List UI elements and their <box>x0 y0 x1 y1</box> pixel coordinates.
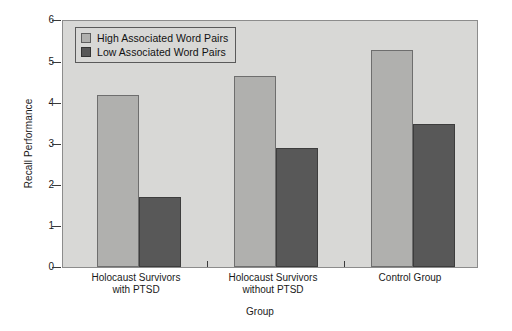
legend-label-high: High Associated Word Pairs <box>97 32 228 44</box>
y-tick-label-5: 5 <box>30 57 54 67</box>
x-tick-mark-2 <box>344 261 345 267</box>
x-tick-label-group-2-line-2: without PTSD <box>173 284 373 296</box>
y-tick-mark-0 <box>52 267 61 268</box>
y-tick-label-4: 4 <box>30 98 54 108</box>
y-tick-label-6: 6 <box>30 15 54 25</box>
y-tick-label-1: 1 <box>30 221 54 231</box>
x-axis-title: Group <box>40 306 480 317</box>
x-tick-label-group-3-line-1: Control Group <box>310 272 510 284</box>
y-tick-label-2: 2 <box>30 180 54 190</box>
y-tick-mark-3 <box>52 144 61 145</box>
y-tick-mark-6 <box>52 20 61 21</box>
bar-low-control-group <box>413 124 455 268</box>
y-tick-mark-1 <box>52 226 61 227</box>
x-tick-label-group-3: Control Group <box>310 272 510 284</box>
legend-item-low: Low Associated Word Pairs <box>81 45 228 59</box>
bar-chart-figure: Recall Performance 0 1 2 3 4 5 6 <box>0 0 512 331</box>
legend-item-high: High Associated Word Pairs <box>81 31 228 45</box>
bar-high-holocaust-with-ptsd <box>97 95 139 267</box>
y-tick-mark-4 <box>52 103 61 104</box>
bar-high-control-group <box>371 50 413 267</box>
legend: High Associated Word Pairs Low Associate… <box>75 27 236 63</box>
bar-low-holocaust-with-ptsd <box>139 197 181 267</box>
y-tick-mark-5 <box>52 62 61 63</box>
legend-swatch-high-icon <box>81 33 91 43</box>
legend-swatch-low-icon <box>81 47 91 57</box>
x-tick-mark-1 <box>207 261 208 267</box>
plot-area: High Associated Word Pairs Low Associate… <box>62 20 478 268</box>
y-tick-label-0: 0 <box>30 262 54 272</box>
y-tick-label-3: 3 <box>30 139 54 149</box>
plot-inner: High Associated Word Pairs Low Associate… <box>63 21 477 267</box>
bar-low-holocaust-without-ptsd <box>276 148 318 267</box>
legend-label-low: Low Associated Word Pairs <box>97 46 226 58</box>
bar-high-holocaust-without-ptsd <box>234 76 276 267</box>
y-tick-mark-2 <box>52 185 61 186</box>
